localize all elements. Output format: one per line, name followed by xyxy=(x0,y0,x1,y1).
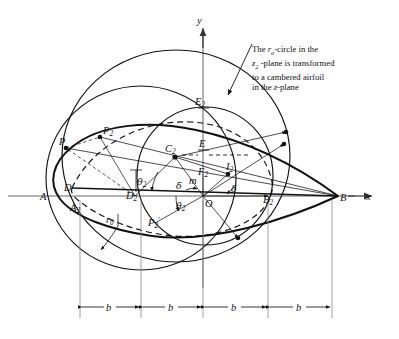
caption-line-3: to a cambered airfoil xyxy=(252,72,324,82)
x-axis-label: x xyxy=(365,191,371,202)
dot-P2 xyxy=(98,135,103,140)
dim-label-b-1: b xyxy=(106,302,111,313)
dot-upper-right-C2 xyxy=(284,130,289,135)
caption-leader-group xyxy=(228,44,252,95)
figure-root: x y A B D D2 A2 B2 C2 E E2 F2 I2 O P P2 … xyxy=(0,0,399,339)
line-D2-P2 xyxy=(100,137,135,196)
label-A: A xyxy=(39,191,47,202)
label-m: m xyxy=(189,175,197,186)
caption-line-1: The ro-circle in the xyxy=(252,44,318,54)
dot-upper-right-O xyxy=(282,142,287,147)
label-I2: I2 xyxy=(225,161,234,174)
caption-line-2: z2 -plane is transformed xyxy=(252,58,334,68)
label-delta-right: δ xyxy=(231,183,237,194)
caption-leader-line xyxy=(228,44,252,95)
label-P2: P2 xyxy=(102,125,113,138)
label-D: D xyxy=(63,182,72,193)
label-P2-prime: P2′ xyxy=(147,217,160,231)
label-theta2-upper: θ2 xyxy=(137,176,147,189)
delta-left-arc xyxy=(186,188,197,190)
label-delta-left: δ xyxy=(176,180,182,191)
figure-caption: The ro-circle in the z2 -plane is transf… xyxy=(252,44,392,92)
dot-lower-right xyxy=(236,236,241,241)
label-P: P xyxy=(58,136,66,147)
caption-line-4: in the z-plane xyxy=(252,82,299,92)
label-A2: A2 xyxy=(69,202,80,215)
y-axis-label: y xyxy=(196,15,202,26)
dim-label-b-2: b xyxy=(168,302,173,313)
label-D2: D2 xyxy=(125,190,138,203)
label-O: O xyxy=(205,198,213,209)
label-B: B xyxy=(340,192,347,203)
dim-label-b-3: b xyxy=(231,302,236,313)
dim-label-b-4: b xyxy=(296,302,301,313)
label-E: E xyxy=(198,138,206,149)
label-theta2-lower: θ2 xyxy=(176,200,186,213)
